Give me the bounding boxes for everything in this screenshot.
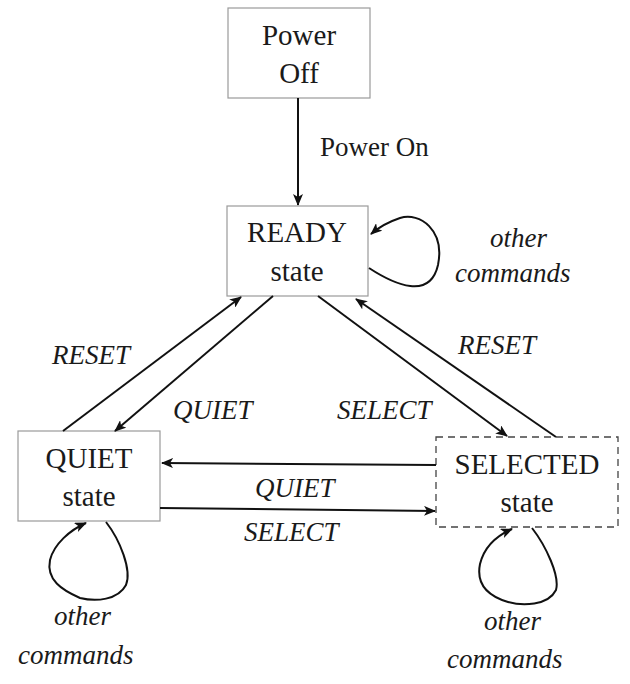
state-selected-line2: state [500, 486, 553, 518]
state-ready: READY state [227, 206, 368, 296]
label-select-lower: SELECT [244, 517, 341, 547]
label-ready-commands: commands [455, 258, 571, 288]
state-power-off-line2: Off [279, 57, 319, 89]
edge-ready-self-loop [369, 217, 439, 286]
state-quiet-line1: QUIET [46, 442, 133, 474]
label-quiet-upper: QUIET [173, 395, 254, 425]
state-quiet-line2: state [62, 480, 115, 512]
state-selected-line1: SELECTED [455, 448, 600, 480]
label-quiet-lower: QUIET [255, 473, 336, 503]
label-selected-other: other [484, 606, 541, 636]
label-quiet-commands: commands [18, 640, 134, 670]
edge-selected-self-loop [479, 528, 556, 604]
label-reset-right: RESET [457, 330, 538, 360]
edge-quiet-to-selected [160, 508, 435, 511]
state-ready-line1: READY [247, 216, 347, 248]
edge-selected-to-quiet [162, 463, 436, 465]
label-select-upper: SELECT [337, 395, 434, 425]
label-reset-left: RESET [51, 340, 132, 370]
state-power-off-line1: Power [262, 19, 336, 51]
edge-quiet-self-loop [49, 522, 127, 600]
state-selected: SELECTED state [436, 437, 618, 527]
state-power-off: Power Off [228, 8, 370, 98]
state-ready-line2: state [270, 255, 323, 287]
state-quiet: QUIET state [18, 431, 160, 521]
label-ready-other: other [490, 223, 547, 253]
state-diagram: Power Off Power On READY state other com… [0, 0, 630, 684]
label-power-on: Power On [320, 132, 429, 162]
label-quiet-other: other [54, 601, 111, 631]
label-selected-commands: commands [447, 644, 563, 674]
